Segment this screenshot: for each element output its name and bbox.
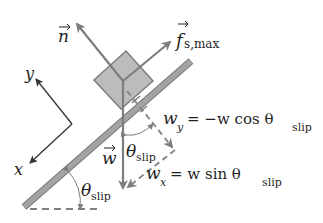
x-axis-label: x: [14, 160, 23, 179]
svg-text:= w sin θ: = w sin θ: [170, 165, 241, 183]
svg-text:slip: slip: [292, 121, 312, 134]
svg-text:slip: slip: [91, 190, 111, 203]
free-body-diagram: n f s,max w y x w y = −w cos θ slip w x …: [0, 0, 323, 223]
y-axis-label: y: [24, 64, 35, 83]
incline-angle-label: θ slip: [81, 180, 111, 203]
normal-force-arrow: [77, 24, 123, 81]
weight-label: w: [102, 145, 117, 168]
weight-angle-label: θ slip: [126, 141, 156, 164]
normal-force-label: n: [58, 24, 70, 46]
svg-text:x: x: [160, 176, 167, 189]
x-axis: [30, 124, 72, 163]
wx-equation: w x = w sin θ slip: [146, 163, 282, 189]
svg-text:s,max: s,max: [184, 37, 220, 51]
wy-equation: w y = −w cos θ slip: [163, 108, 312, 134]
incline-angle-arc: [68, 171, 80, 209]
y-axis: [36, 79, 72, 124]
svg-text:= −w cos θ: = −w cos θ: [187, 110, 273, 128]
svg-text:θ: θ: [126, 141, 136, 161]
coordinate-axes: [30, 79, 72, 163]
svg-text:slip: slip: [262, 176, 282, 189]
weight-angle-arc: [126, 124, 153, 135]
friction-force-label: f s,max: [174, 21, 220, 51]
svg-text:w: w: [146, 163, 161, 183]
svg-text:slip: slip: [136, 151, 156, 164]
svg-text:w: w: [102, 148, 117, 168]
svg-text:y: y: [176, 121, 184, 134]
svg-text:w: w: [163, 108, 178, 128]
svg-text:θ: θ: [81, 180, 91, 200]
